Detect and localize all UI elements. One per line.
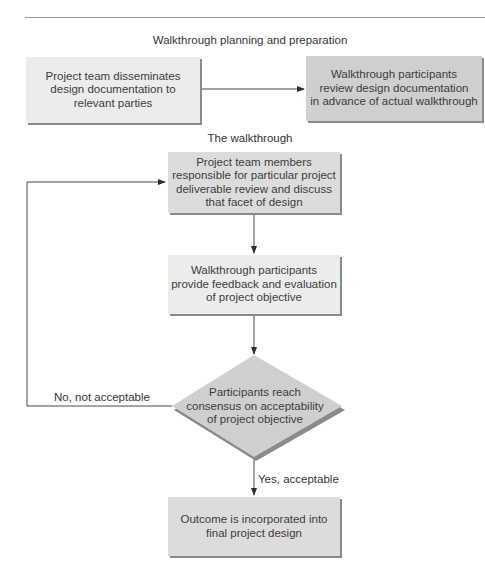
node-feedback-text: Walkthrough participants provide feedbac…: [171, 264, 337, 305]
edge-label-no: No, not acceptable: [54, 391, 150, 403]
node-outcome-text: Outcome is incorporated into final proje…: [180, 513, 327, 540]
node-disseminate: Project team disseminates design documen…: [26, 57, 200, 123]
node-outcome: Outcome is incorporated into final proje…: [168, 497, 340, 556]
edge-label-yes: Yes, acceptable: [258, 473, 339, 485]
node-team-discuss: Project team members responsible for par…: [168, 152, 340, 213]
node-review-docs-text: Walkthrough participants review design d…: [310, 68, 478, 109]
node-consensus-text: Participants reach consensus on acceptab…: [182, 386, 328, 427]
node-feedback: Walkthrough participants provide feedbac…: [168, 255, 340, 314]
section-title-walkthrough: The walkthrough: [180, 132, 320, 144]
node-team-discuss-text: Project team members responsible for par…: [172, 156, 336, 210]
node-disseminate-text: Project team disseminates design documen…: [46, 70, 181, 111]
node-review-docs: Walkthrough participants review design d…: [306, 56, 482, 121]
